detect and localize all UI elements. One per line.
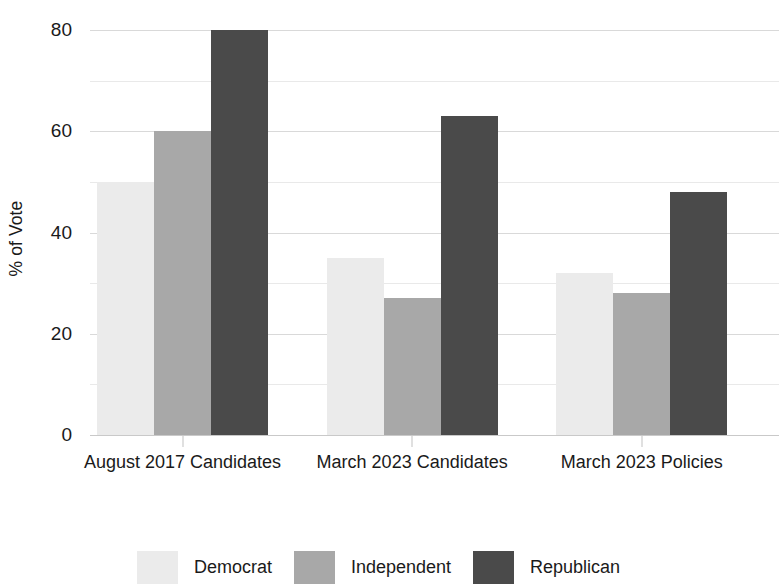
x-axis-tick-label: August 2017 Candidates: [84, 452, 281, 473]
legend-item: Democrat: [137, 551, 294, 584]
y-axis-tick-label: 60: [0, 120, 82, 142]
y-axis-tick-label: 0: [0, 424, 82, 446]
bar: [211, 30, 268, 435]
x-axis-line: [90, 435, 779, 436]
x-axis-tick-label: March 2023 Candidates: [317, 452, 508, 473]
bar: [670, 192, 727, 435]
legend-swatch: [473, 551, 514, 584]
legend-item: Republican: [473, 551, 642, 584]
x-axis-tick: [182, 436, 183, 447]
y-axis-tick-label: 80: [0, 19, 82, 41]
gridline-major: [90, 30, 779, 31]
x-axis-tick-label: March 2023 Policies: [561, 452, 723, 473]
y-axis-tick-label: 40: [0, 222, 82, 244]
legend-swatch: [137, 551, 178, 584]
bar: [556, 273, 613, 435]
bar: [154, 131, 211, 435]
x-axis-tick: [412, 436, 413, 447]
bar: [384, 298, 441, 435]
bar: [97, 182, 154, 435]
legend-item: Independent: [294, 551, 473, 584]
y-axis-tick-label: 20: [0, 323, 82, 345]
legend-label: Independent: [351, 557, 451, 578]
bar: [613, 293, 670, 435]
legend-swatch: [294, 551, 335, 584]
plot-area: [90, 30, 779, 435]
bar: [327, 258, 384, 435]
bar-chart: % of Vote 020406080 August 2017 Candidat…: [0, 0, 779, 588]
bar: [441, 116, 498, 435]
gridline-minor: [90, 81, 779, 82]
chart-legend: DemocratIndependentRepublican: [0, 551, 779, 584]
legend-label: Republican: [530, 557, 620, 578]
x-axis-tick: [641, 436, 642, 447]
legend-label: Democrat: [194, 557, 272, 578]
y-axis-tick-labels: 020406080: [0, 0, 82, 588]
